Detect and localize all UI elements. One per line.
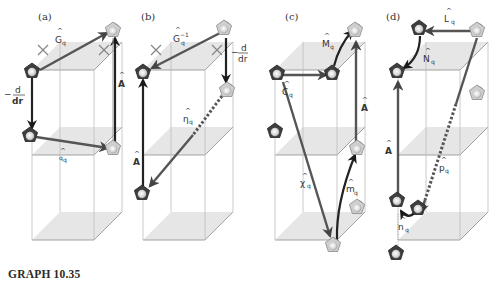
pentagon-node: [347, 22, 362, 37]
svg-text:q: q: [451, 18, 455, 26]
label-minus-d-dr: −: [4, 89, 12, 99]
pentagon-node: [216, 20, 231, 35]
cross-icon: [38, 45, 48, 55]
pentagon-node: [349, 199, 364, 214]
svg-text:dr: dr: [12, 96, 23, 106]
label-A-hat: A: [385, 146, 392, 156]
pentagon-node: [469, 22, 484, 37]
pentagon-node: [105, 22, 120, 37]
pentagon-node: [388, 245, 403, 260]
label-A-hat: A: [361, 103, 368, 113]
figure-diagram: (a) ^ G q − d dr ^ A ^ q q (b): [0, 0, 497, 287]
pentagon-node: [267, 123, 282, 138]
svg-text:q: q: [189, 118, 193, 126]
pentagon-node: [389, 192, 404, 207]
pentagon-node: [469, 85, 484, 100]
label-chi-hat-q: χ: [300, 178, 305, 188]
panel-d-label: (d): [386, 11, 400, 22]
svg-text:q: q: [63, 156, 67, 164]
label-N-hat-q: N: [423, 54, 430, 64]
svg-text:−1: −1: [180, 31, 189, 38]
svg-text:^: ^: [119, 71, 125, 79]
label-G-hat-q-inverse: G: [173, 34, 180, 44]
pentagon-node: [349, 140, 364, 155]
cross-icon: [151, 45, 161, 55]
label-eta-hat-q: η: [183, 114, 189, 124]
svg-text:q: q: [62, 39, 66, 47]
figure-caption: GRAPH 10.35: [8, 268, 80, 280]
svg-text:q: q: [181, 39, 185, 47]
panel-c: (c) ^ M q ^ C q ^ A ^ χ q ^ m q: [267, 11, 368, 252]
svg-text:dr: dr: [238, 54, 248, 64]
panel-d: (d) ^ L q ^ N q ^ A ^ p q ^ n q: [385, 7, 488, 260]
panel-a: (a) ^ G q − d dr ^ A ^ q q: [4, 11, 125, 240]
svg-text:q: q: [405, 226, 409, 234]
label-n-hat-q: n: [398, 222, 404, 232]
svg-text:q: q: [289, 91, 293, 99]
label-L-hat-q: L: [444, 14, 449, 24]
label-A-hat: A: [133, 157, 140, 167]
stacked-planes-d: [398, 42, 488, 240]
label-C-hat-q: C: [282, 87, 288, 97]
panel-a-label: (a): [38, 11, 52, 22]
panel-b-label: (b): [141, 11, 155, 22]
label-A-hat: A: [118, 79, 125, 89]
svg-text:q: q: [431, 58, 435, 66]
pentagon-node: [389, 63, 404, 78]
svg-text:q: q: [330, 43, 334, 51]
panel-c-label: (c): [285, 11, 299, 22]
svg-text:q: q: [445, 167, 449, 175]
label-G-hat-q: G: [55, 35, 62, 45]
pentagon-node: [134, 185, 149, 200]
panel-b: (b) ^ G −1 q − d dr ^ η q ^ A: [133, 11, 248, 240]
pentagon-node: [411, 20, 426, 35]
pentagon-node: [105, 140, 120, 155]
pentagon-node: [219, 82, 234, 97]
svg-text:d: d: [15, 85, 21, 95]
svg-text:d: d: [241, 43, 247, 53]
stacked-planes-a: [32, 42, 122, 240]
pentagon-node: [22, 127, 37, 142]
svg-text:q: q: [354, 189, 358, 197]
svg-text:q: q: [307, 182, 311, 190]
label-M-hat-q: M: [322, 39, 330, 49]
svg-text:^: ^: [57, 27, 63, 35]
